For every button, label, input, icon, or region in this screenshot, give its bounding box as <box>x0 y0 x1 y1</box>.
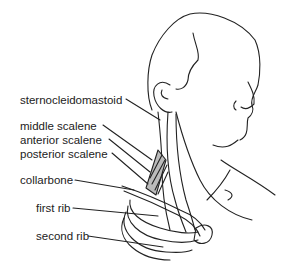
label-middle-scalene: middle scalene <box>20 121 97 133</box>
label-anterior-scalene: anterior scalene <box>20 135 102 147</box>
neck-anatomy-drawing <box>0 0 293 266</box>
scalene-muscles <box>146 150 168 195</box>
label-first-rib: first rib <box>36 203 71 215</box>
head-outline <box>148 13 260 140</box>
label-sternocleidomastoid: sternocleidomastoid <box>20 95 122 107</box>
label-second-rib: second rib <box>36 231 89 243</box>
label-collarbone: collarbone <box>20 175 73 187</box>
label-posterior-scalene: posterior scalene <box>20 149 108 161</box>
